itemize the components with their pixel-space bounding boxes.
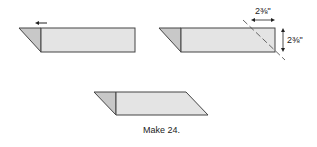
height-dimension-arrow bbox=[281, 28, 285, 52]
arrow-left-icon bbox=[35, 21, 47, 25]
caption-text: Make 24. bbox=[143, 125, 180, 135]
width-dimension-arrow bbox=[251, 18, 275, 22]
step-2-unit: 2⅜" 2⅜" bbox=[159, 6, 303, 60]
step-1-unit bbox=[19, 21, 135, 52]
step-3-unit bbox=[94, 92, 208, 115]
width-dimension-label: 2⅜" bbox=[255, 6, 271, 16]
height-dimension-label: 2⅜" bbox=[287, 35, 303, 45]
